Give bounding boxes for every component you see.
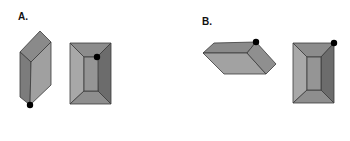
- panel-a-frustum: [70, 43, 111, 104]
- vertex-marker-dot: [27, 102, 33, 108]
- diagram-canvas: [0, 0, 350, 141]
- panel-b-prism: [203, 39, 276, 74]
- vertex-marker-dot: [94, 54, 100, 60]
- panel-a-prism: [20, 31, 51, 108]
- panel-b-frustum: [293, 40, 337, 103]
- vertex-marker-dot: [253, 39, 259, 45]
- vertex-marker-dot: [331, 40, 337, 46]
